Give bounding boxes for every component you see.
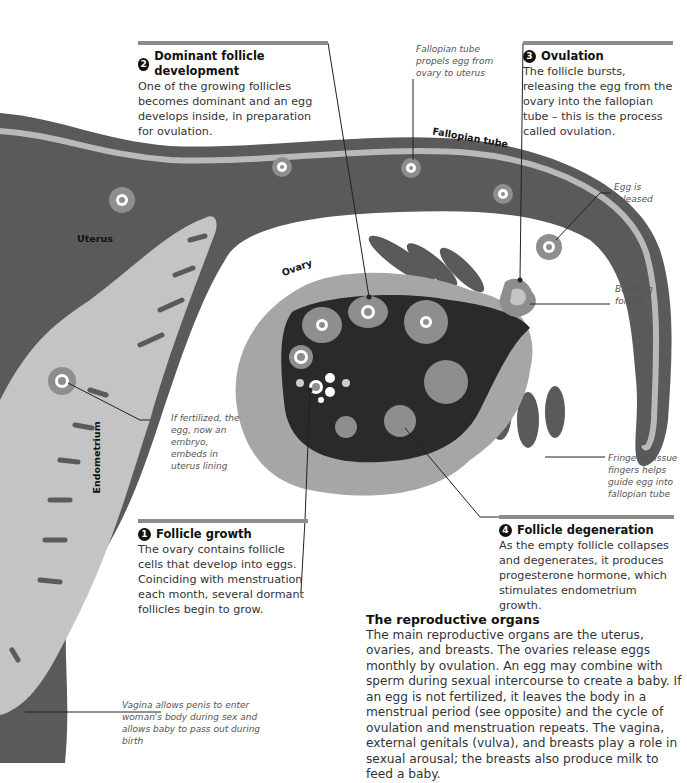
step-4-box: 4Follicle degeneration As the empty foll… [499,515,674,613]
note-vagina: Vagina allows penis to enter woman's bod… [122,699,272,747]
step-text: The follicle bursts, releasing the egg f… [523,64,673,139]
step-number-badge: 2 [138,58,149,71]
step-title: Follicle growth [156,527,252,542]
summary-title: The reproductive organs [366,612,686,628]
step-1-box: 1Follicle growth The ovary contains foll… [138,519,308,617]
uterus-label: Uterus [77,233,113,244]
note-fallopian-propels: Fallopian tube propels egg from ovary to… [416,43,496,79]
summary-section: The reproductive organs The main reprodu… [366,612,686,783]
note-if-fertilized: If fertilized, the egg, now an embryo, e… [171,412,243,472]
step-title: Dominant follicle development [154,49,328,79]
step-number-badge: 1 [138,528,151,541]
note-bursting-follicle: Bursting follicle [615,283,665,307]
step-text: As the empty follicle collapses and dege… [499,538,674,613]
step-number-badge: 3 [523,50,536,63]
step-title: Follicle degeneration [517,523,654,538]
step-text: One of the growing follicles becomes dom… [138,79,328,139]
divider [138,519,308,523]
divider [523,41,673,45]
note-fringe: Fringe of tissue fingers helps guide egg… [608,452,683,500]
step-3-box: 3Ovulation The follicle bursts, releasin… [523,41,673,139]
step-2-box: 2Dominant follicle development One of th… [138,41,328,139]
step-title: Ovulation [541,49,604,64]
divider [138,41,328,45]
endometrium-label: Endometrium [91,421,102,493]
note-egg-released: Egg is released [614,181,664,205]
step-text: The ovary contains follicle cells that d… [138,542,308,617]
step-number-badge: 4 [499,524,512,537]
summary-text: The main reproductive organs are the ute… [366,628,686,783]
divider [499,515,674,519]
